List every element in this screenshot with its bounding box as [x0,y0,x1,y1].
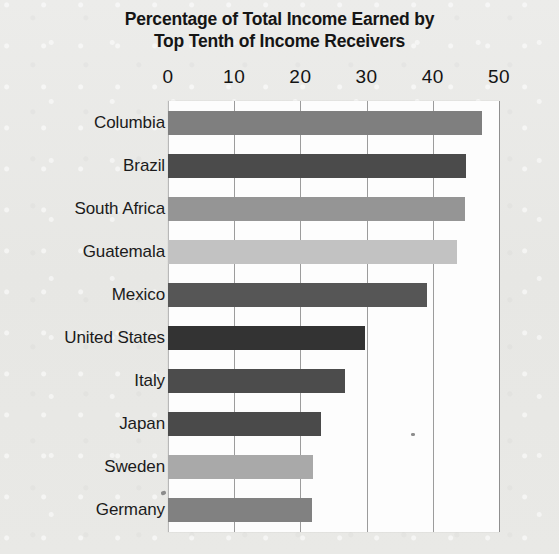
category-label-brazil: Brazil [123,156,165,176]
bar-brazil [168,154,466,178]
bar-row: Italy [0,369,559,393]
bar-row: Germany [0,498,559,522]
category-label-japan: Japan [119,414,165,434]
bar-row: United States [0,326,559,350]
bar-germany [168,498,312,522]
category-label-sweden: Sweden [104,457,165,477]
category-label-germany: Germany [96,500,165,520]
page-speck-2 [161,490,167,495]
bar-south-africa [168,197,465,221]
bar-italy [168,369,345,393]
bar-united-states [168,326,365,350]
page-speck-1 [411,433,415,436]
bar-row: Guatemala [0,240,559,264]
chart-title-line-2: Top Tenth of Income Receivers [0,30,559,52]
bar-row: Columbia [0,111,559,135]
bar-chart-figure: Percentage of Total Income Earned by Top… [0,0,559,554]
bar-row: Japan [0,412,559,436]
x-axis-tick-labels: 01020304050 [0,66,559,94]
x-tick-label-20: 20 [289,66,311,88]
x-tick-label-40: 40 [422,66,444,88]
chart-title: Percentage of Total Income Earned by Top… [0,8,559,52]
bar-japan [168,412,321,436]
x-tick-label-30: 30 [356,66,378,88]
bar-columbia [168,111,482,135]
bar-sweden [168,455,313,479]
category-label-south-africa: South Africa [75,199,165,219]
bar-row: Sweden [0,455,559,479]
category-label-guatemala: Guatemala [83,242,165,262]
x-tick-label-50: 50 [488,66,510,88]
bar-row: Mexico [0,283,559,307]
category-label-italy: Italy [134,371,165,391]
bar-mexico [168,283,427,307]
category-label-mexico: Mexico [112,285,165,305]
bar-guatemala [168,240,457,264]
x-tick-label-0: 0 [162,66,173,88]
category-label-columbia: Columbia [94,113,165,133]
x-tick-label-10: 10 [223,66,245,88]
category-label-united-states: United States [64,328,165,348]
bar-row: Brazil [0,154,559,178]
bar-row: South Africa [0,197,559,221]
chart-title-line-1: Percentage of Total Income Earned by [0,8,559,30]
